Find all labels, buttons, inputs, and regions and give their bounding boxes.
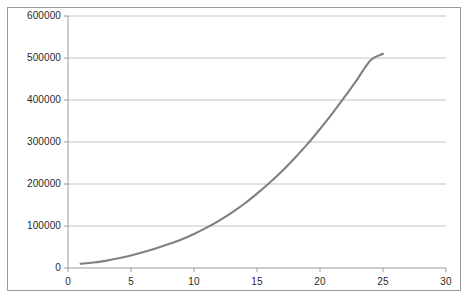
- y-tick-label: 200000: [27, 178, 61, 189]
- x-tick-label: 30: [426, 276, 466, 287]
- y-tick-label: 300000: [27, 136, 61, 147]
- x-tick-label: 15: [237, 276, 277, 287]
- data-series-line: [81, 54, 383, 264]
- x-tick-label: 10: [174, 276, 214, 287]
- x-tick-label: 20: [300, 276, 340, 287]
- y-tick-label: 400000: [27, 94, 61, 105]
- y-axis-ticks: [64, 16, 68, 268]
- x-tick-label: 5: [111, 276, 151, 287]
- y-tick-label: 0: [55, 262, 61, 273]
- x-tick-label: 0: [48, 276, 88, 287]
- y-tick-label: 100000: [27, 220, 61, 231]
- y-tick-label: 600000: [27, 10, 61, 21]
- y-tick-label: 500000: [27, 52, 61, 63]
- chart-frame: 0100000200000300000400000500000600000 05…: [7, 7, 461, 291]
- x-tick-label: 25: [363, 276, 403, 287]
- chart-plot-area: [8, 8, 460, 290]
- x-axis-ticks: [68, 268, 446, 272]
